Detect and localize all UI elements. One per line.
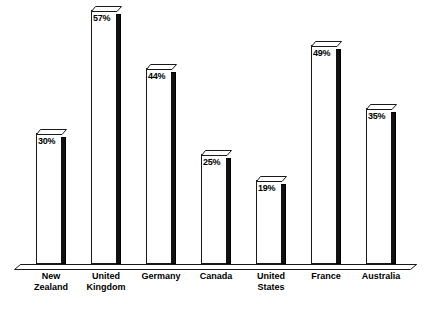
bar-top-bevel [201, 150, 232, 156]
bar-group[interactable]: 57% [91, 0, 122, 264]
bar-value-label: 25% [203, 157, 220, 167]
bar-top-bevel [36, 129, 67, 135]
bar-face [146, 68, 171, 264]
bar-top-bevel [366, 104, 397, 110]
bar-group[interactable]: 25% [201, 0, 232, 264]
bar-side-shadow [336, 49, 341, 264]
bar-group[interactable]: 19% [256, 0, 287, 264]
bar-value-label: 49% [313, 48, 330, 58]
bar-face [91, 10, 116, 264]
bar-value-label: 57% [93, 13, 110, 23]
bar-value-label: 35% [368, 111, 385, 121]
bar-side-shadow [171, 72, 176, 264]
category-label-australia: Australia [345, 271, 417, 282]
bar-face [201, 154, 226, 264]
bar-top-bevel [91, 6, 122, 12]
bar-value-label: 30% [38, 136, 55, 146]
bar-group[interactable]: 44% [146, 0, 177, 264]
bar-value-label: 44% [148, 71, 165, 81]
bar-top-bevel [311, 41, 342, 47]
bar-side-shadow [281, 184, 286, 264]
bar-side-shadow [61, 137, 66, 264]
bar-face [366, 108, 391, 264]
bar-side-shadow [391, 112, 396, 264]
bar-top-bevel [146, 64, 177, 70]
bar-face [311, 45, 336, 264]
bar-chart: 30% 57% 44% 25% [0, 0, 428, 309]
bar-group[interactable]: 49% [311, 0, 342, 264]
bar-face [36, 133, 61, 264]
plot-area: 30% 57% 44% 25% [0, 0, 428, 309]
bar-side-shadow [116, 14, 121, 264]
bar-value-label: 19% [258, 183, 275, 193]
bar-top-bevel [256, 176, 287, 182]
bar-group[interactable]: 30% [36, 0, 67, 264]
bar-group[interactable]: 35% [366, 0, 397, 264]
bar-side-shadow [226, 158, 231, 264]
